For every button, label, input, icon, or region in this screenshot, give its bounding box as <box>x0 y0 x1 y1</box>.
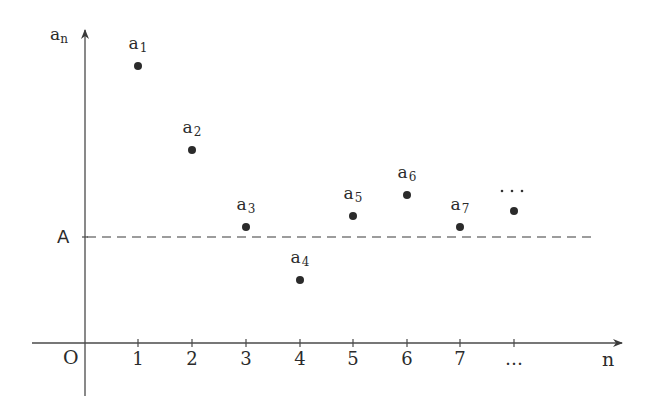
y-axis-label-base: a <box>50 24 60 44</box>
point-label-sub: 2 <box>194 125 202 139</box>
point-label-base: a <box>183 117 193 137</box>
point-label: a7 <box>451 196 470 215</box>
data-point <box>134 62 142 70</box>
x-tick-label: 6 <box>401 350 412 368</box>
ellipsis-marker <box>501 190 524 193</box>
x-tick-label: 7 <box>454 350 465 368</box>
point-label: a2 <box>183 119 202 138</box>
data-point <box>349 212 357 220</box>
data-point <box>188 146 196 154</box>
point-label: a1 <box>129 35 148 54</box>
point-label-sub: 1 <box>140 41 148 55</box>
x-tick-label: … <box>505 350 523 368</box>
point-label: a6 <box>398 164 417 183</box>
data-point <box>456 223 464 231</box>
data-point <box>510 207 518 215</box>
data-point <box>296 276 304 284</box>
x-tick-label: 5 <box>347 350 358 368</box>
x-tick-label: 3 <box>240 350 251 368</box>
point-label: a4 <box>291 249 310 268</box>
point-label-sub: 6 <box>409 170 417 184</box>
point-label: a5 <box>344 185 363 204</box>
point-label-sub: 5 <box>355 191 363 205</box>
point-label-base: a <box>237 194 247 214</box>
x-axis-label: n <box>602 350 614 369</box>
data-point <box>403 191 411 199</box>
point-label-base: a <box>344 183 354 203</box>
data-points <box>134 62 518 284</box>
data-point <box>242 223 250 231</box>
point-label-base: a <box>451 194 461 214</box>
reference-label-A: A <box>57 228 69 246</box>
point-label-sub: 4 <box>302 255 310 269</box>
x-tick-label: 4 <box>294 350 305 368</box>
point-label-base: a <box>398 162 408 182</box>
x-tick-label: 2 <box>186 350 197 368</box>
x-tick-label: 1 <box>132 350 143 368</box>
point-label: a3 <box>237 196 256 215</box>
point-label-base: a <box>291 247 301 267</box>
point-label-sub: 7 <box>462 202 470 216</box>
y-axis-label: an <box>50 26 68 45</box>
origin-label: O <box>63 348 79 367</box>
plot-canvas <box>0 0 646 418</box>
point-label-sub: 3 <box>248 202 256 216</box>
point-label-base: a <box>129 33 139 53</box>
y-axis-label-sub: n <box>60 32 68 46</box>
